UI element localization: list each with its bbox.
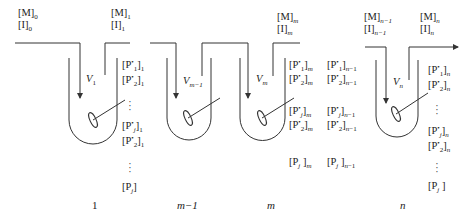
reactor-1 [15,43,130,144]
feed-label-0: [M]0 [I]0 [18,7,38,31]
species-p1-star-1: [P•1]1 [122,59,144,71]
stage-number-n: n [400,199,406,211]
stirrer-shaft-n [396,93,428,114]
species-p2-star-n-b: [P•2]n [428,140,450,152]
stirrer-shaft-1 [93,100,125,120]
species-p2-star-1b: [P•2]1 [122,135,144,147]
vessel-m [240,58,285,141]
vessel-1 [69,58,117,144]
vessel-m-1 [167,58,211,140]
species-p2-star-m: [P•2]m [289,73,313,85]
feed-label-n-1: [M]n−1 [I]n−1 [364,11,392,35]
volume-label-m: Vm [256,73,267,85]
species-p2-star-m-b: [P•2]m [289,119,313,131]
species-pj-1: [Pj] [122,181,137,193]
reactor-schematic [0,0,470,220]
species-pj-star-1: [P•j]1 [122,120,143,132]
reactor-n [365,47,458,137]
ellipsis-na: ··· [434,104,440,116]
feed-label-n: [M]n [I]n [420,11,440,35]
transfer-pipe-m [202,43,248,98]
volume-label-n: Vn [393,76,403,88]
stage-number-m: m [267,199,275,211]
species-pj-star-m: [P•j]m [289,105,311,117]
inlet-pipe-m-1 [150,43,176,98]
species-pj-star-n: [P•j]n [428,125,449,137]
inlet-pipe-1 [15,43,80,98]
species-pj-n-1: [Pj ]n−1 [327,156,355,168]
ellipsis-1a: ··· [127,100,133,112]
species-p2-star-n-1b: [P•2]n−1 [327,119,357,131]
feed-label-m: [M]m [I]m [277,11,298,35]
ellipsis-1b: ··· [127,162,133,174]
species-p2-star-n-1: [P•2]n−1 [327,73,357,85]
vessel-n [376,60,418,137]
stage-number-m-1: m−1 [177,199,198,211]
feed-label-1: [M]1 [I]1 [111,7,131,31]
ellipsis-nb: ··· [434,162,440,174]
species-p1-star-n-1: [P•1]n−1 [327,59,357,71]
species-p2-star-1: [P•2]1 [122,74,144,86]
species-pj-star-n-1: [P•j]n−1 [327,105,355,117]
species-p2-star-n: [P•2]n [428,79,450,91]
stage-number-1: 1 [92,199,98,211]
stirrer-shaft-m-1 [188,98,220,118]
species-pj-m: [Pj ]m [289,156,311,168]
species-pj-n: [Pj ] [428,180,445,192]
volume-label-1: V1 [86,73,96,85]
volume-label-m-1: Vm−1 [183,75,203,87]
species-p1-star-n: [P•1]n [428,64,450,76]
reactor-cascade-diagram: [M]0 [I]0 [M]1 [I]1 [M]m [I]m [M]n−1 [I]… [0,0,470,220]
reactor-m-1 [150,43,220,140]
species-p1-star-m: [P•1]m [289,59,313,71]
